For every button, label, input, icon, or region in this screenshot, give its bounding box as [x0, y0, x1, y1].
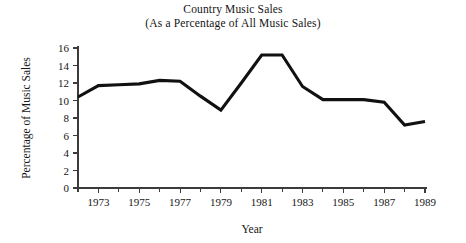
line-chart-plot: 0246810121416 19731975197719791981198319… [0, 0, 466, 243]
x-axis-title: Year [241, 223, 262, 235]
y-tick-label: 8 [64, 112, 70, 124]
y-tick-label: 0 [64, 182, 70, 194]
data-series-group [78, 55, 425, 125]
y-tick-label: 10 [58, 95, 70, 107]
x-tick-label: 1989 [414, 196, 437, 208]
x-tick-label: 1985 [332, 196, 355, 208]
x-tick-label: 1973 [87, 196, 110, 208]
chart-container: Country Music Sales (As a Percentage of … [0, 0, 466, 243]
y-tick-label: 6 [64, 130, 70, 142]
y-tick-label: 12 [58, 77, 69, 89]
y-tick-label: 16 [58, 42, 70, 54]
x-tick-label: 1987 [373, 196, 396, 208]
y-tick-label: 2 [64, 165, 70, 177]
x-tick-label: 1981 [251, 196, 273, 208]
x-tick-label: 1983 [292, 196, 315, 208]
x-axis: 197319751977197919811983198519871989 [78, 188, 437, 208]
x-tick-label: 1977 [169, 196, 192, 208]
x-tick-label: 1979 [210, 196, 233, 208]
data-line-country-music-sales [78, 55, 425, 125]
y-axis: 0246810121416 [58, 42, 78, 194]
y-tick-label: 4 [64, 147, 70, 159]
y-tick-label: 14 [58, 60, 70, 72]
x-tick-label: 1975 [128, 196, 151, 208]
y-axis-title: Percentage of Music Sales [20, 57, 33, 179]
